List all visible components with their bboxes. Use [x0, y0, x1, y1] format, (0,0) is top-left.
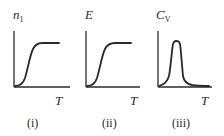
ylabel-n1: n1 [13, 7, 24, 24]
caption-iii: (iii) [172, 116, 190, 130]
ylabel-Cv: CV [156, 7, 171, 24]
caption-ii: (ii) [102, 116, 117, 130]
curve-peak [159, 41, 209, 86]
ylabel-E: E [84, 7, 93, 22]
panel-ii: E T (ii) [84, 7, 140, 130]
figure-canvas: n1 T (i) E T (ii) CV T (iii) [0, 0, 224, 136]
panel-iii: CV T (iii) [156, 7, 212, 130]
curve-sigmoid [15, 43, 59, 86]
curve-sigmoid [87, 43, 131, 86]
xlabel-T: T [130, 93, 138, 108]
xlabel-T: T [55, 93, 63, 108]
caption-i: (i) [27, 116, 38, 130]
xlabel-T: T [201, 93, 209, 108]
panel-i: n1 T (i) [13, 7, 70, 130]
